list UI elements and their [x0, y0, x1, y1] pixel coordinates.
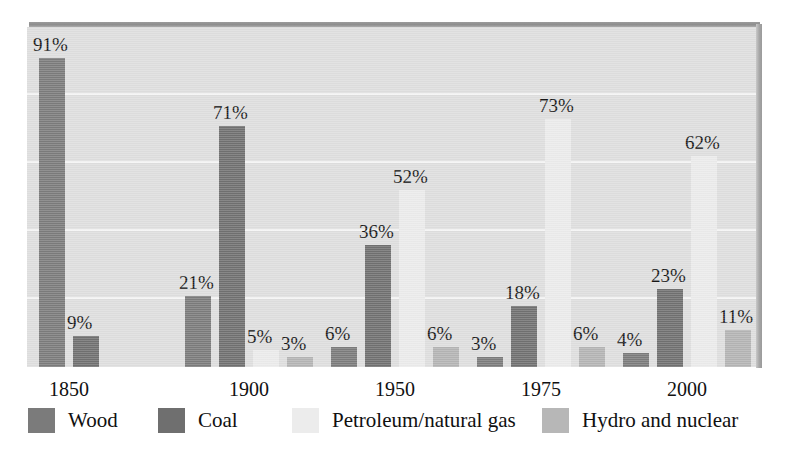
bar-1900-petro	[253, 350, 279, 367]
bar-1950-coal	[365, 245, 391, 367]
x-tick-1950: 1950	[375, 378, 415, 401]
bar-value-label: 21%	[179, 273, 214, 292]
bar-value-label: 6%	[325, 324, 350, 343]
legend-item-petro[interactable]: Petroleum/natural gas	[292, 408, 516, 433]
bar-1850-wood	[39, 58, 65, 367]
gridline	[27, 161, 756, 163]
bar-value-label: 6%	[573, 324, 598, 343]
bar-value-label: 73%	[539, 96, 574, 115]
bar-value-label: 4%	[617, 330, 642, 349]
legend-label: Petroleum/natural gas	[332, 410, 516, 431]
bar-value-label: 71%	[213, 103, 248, 122]
bar-value-label: 9%	[67, 313, 92, 332]
bar-value-label: 11%	[719, 307, 753, 326]
bar-value-label: 3%	[471, 334, 496, 353]
bar-1900-coal	[219, 126, 245, 367]
bar-value-label: 62%	[685, 133, 720, 152]
legend-label: Coal	[198, 410, 238, 431]
bar-1950-hydro	[433, 347, 459, 367]
bar-2000-wood	[623, 353, 649, 367]
gridline	[27, 297, 756, 299]
bar-value-label: 3%	[281, 334, 306, 353]
bar-2000-hydro	[725, 330, 751, 367]
legend-label: Wood	[68, 410, 118, 431]
bar-value-label: 52%	[393, 167, 428, 186]
bar-1900-wood	[185, 296, 211, 367]
legend-swatch-coal-icon	[158, 408, 185, 433]
bar-1950-wood	[331, 347, 357, 367]
legend-swatch-wood-icon	[28, 408, 55, 433]
chart-legend: WoodCoalPetroleum/natural gasHydro and n…	[0, 408, 790, 448]
bar-value-label: 91%	[33, 35, 68, 54]
plot-panel: 91%9%21%71%5%3%6%36%52%6%3%18%73%6%4%23%…	[27, 22, 762, 370]
legend-item-hydro[interactable]: Hydro and nuclear	[542, 408, 738, 433]
bar-1900-hydro	[287, 357, 313, 367]
bar-1975-hydro	[579, 347, 605, 367]
x-tick-1900: 1900	[229, 378, 269, 401]
panel-right-edge	[756, 24, 762, 368]
bar-value-label: 6%	[427, 324, 452, 343]
bar-2000-coal	[657, 289, 683, 367]
bar-1975-coal	[511, 306, 537, 367]
legend-label: Hydro and nuclear	[582, 410, 738, 431]
legend-swatch-hydro-icon	[542, 408, 569, 433]
bar-value-label: 23%	[651, 266, 686, 285]
energy-sources-bar-chart: 91%9%21%71%5%3%6%36%52%6%3%18%73%6%4%23%…	[0, 0, 790, 475]
bar-value-label: 5%	[247, 327, 272, 346]
gridline	[27, 93, 756, 95]
bar-1850-coal	[73, 336, 99, 367]
x-tick-1975: 1975	[521, 378, 561, 401]
bar-1950-petro	[399, 190, 425, 367]
legend-item-coal[interactable]: Coal	[158, 408, 238, 433]
legend-swatch-petro-icon	[292, 408, 319, 433]
plot-area: 91%9%21%71%5%3%6%36%52%6%3%18%73%6%4%23%…	[27, 27, 756, 367]
x-tick-2000: 2000	[667, 378, 707, 401]
bar-value-label: 18%	[505, 283, 540, 302]
legend-item-wood[interactable]: Wood	[28, 408, 118, 433]
bar-value-label: 36%	[359, 222, 394, 241]
bar-1975-wood	[477, 357, 503, 367]
x-tick-1850: 1850	[49, 378, 89, 401]
bar-1975-petro	[545, 119, 571, 367]
bar-2000-petro	[691, 156, 717, 367]
